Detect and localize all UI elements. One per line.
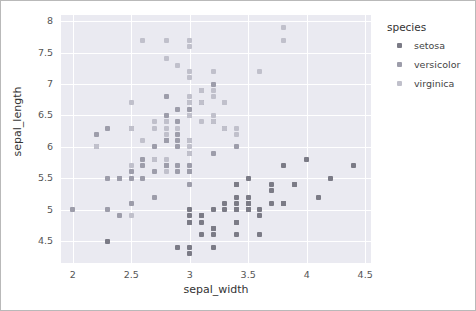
legend-item-virginica[interactable]: virginica xyxy=(387,78,473,89)
data-point-versicolor xyxy=(175,119,180,124)
data-point-virginica xyxy=(175,63,180,68)
y-axis-title: sepal_length xyxy=(11,62,24,182)
data-point-virginica xyxy=(164,157,169,162)
data-point-setosa xyxy=(222,207,227,212)
data-point-virginica xyxy=(199,119,204,124)
data-point-versicolor xyxy=(164,113,169,118)
data-point-versicolor xyxy=(152,144,157,149)
legend-marker-icon xyxy=(397,81,402,86)
data-point-versicolor xyxy=(117,176,122,181)
data-point-virginica xyxy=(129,163,134,168)
data-point-versicolor xyxy=(175,138,180,143)
scatter-plot-area[interactable] xyxy=(61,15,371,263)
data-point-setosa xyxy=(269,182,274,187)
x-tick-label: 4 xyxy=(304,269,310,280)
y-tick-label: 4.5 xyxy=(1,235,53,246)
data-point-setosa xyxy=(199,232,204,237)
data-point-setosa xyxy=(234,207,239,212)
data-point-versicolor xyxy=(70,207,75,212)
legend-item-label: setosa xyxy=(414,40,445,51)
data-point-virginica xyxy=(281,25,286,30)
data-point-setosa xyxy=(234,232,239,237)
data-point-versicolor xyxy=(164,163,169,168)
data-point-versicolor xyxy=(140,176,145,181)
legend-item-label: virginica xyxy=(414,78,454,89)
y-tick-label: 6.5 xyxy=(1,109,53,120)
x-tick-label: 3 xyxy=(187,269,193,280)
data-point-setosa xyxy=(328,176,333,181)
data-point-setosa xyxy=(269,201,274,206)
data-point-setosa xyxy=(246,195,251,200)
data-point-versicolor xyxy=(164,138,169,143)
data-point-versicolor xyxy=(175,169,180,174)
data-point-virginica xyxy=(187,38,192,43)
data-point-setosa xyxy=(211,245,216,250)
data-point-setosa xyxy=(187,213,192,218)
data-point-setosa xyxy=(257,213,262,218)
data-point-versicolor xyxy=(140,163,145,168)
y-tick-label: 5 xyxy=(1,204,53,215)
x-axis-title: sepal_width xyxy=(61,283,371,296)
data-point-virginica xyxy=(257,69,262,74)
data-point-virginica xyxy=(164,38,169,43)
data-point-setosa xyxy=(211,226,216,231)
data-point-virginica xyxy=(152,157,157,162)
data-point-versicolor xyxy=(187,169,192,174)
data-point-setosa xyxy=(281,163,286,168)
data-point-virginica xyxy=(234,126,239,131)
data-point-versicolor xyxy=(152,169,157,174)
data-point-versicolor xyxy=(187,182,192,187)
data-point-virginica xyxy=(94,144,99,149)
data-point-setosa xyxy=(234,220,239,225)
legend-item-setosa[interactable]: setosa xyxy=(387,40,473,51)
data-point-virginica xyxy=(199,100,204,105)
data-point-versicolor xyxy=(117,213,122,218)
y-tick-label: 8 xyxy=(1,15,53,26)
data-point-versicolor xyxy=(187,163,192,168)
data-point-setosa xyxy=(199,213,204,218)
data-point-versicolor xyxy=(105,176,110,181)
gridline-horizontal xyxy=(61,21,371,22)
data-point-virginica xyxy=(211,88,216,93)
y-tick-label: 5.5 xyxy=(1,172,53,183)
data-point-virginica xyxy=(211,94,216,99)
data-point-virginica xyxy=(222,126,227,131)
data-point-virginica xyxy=(187,44,192,49)
gridline-horizontal xyxy=(61,53,371,54)
data-point-setosa xyxy=(175,245,180,250)
data-point-setosa xyxy=(246,201,251,206)
data-point-setosa xyxy=(187,220,192,225)
data-point-virginica xyxy=(152,119,157,124)
data-point-setosa xyxy=(211,232,216,237)
data-point-setosa xyxy=(187,245,192,250)
data-point-versicolor xyxy=(105,207,110,212)
data-point-virginica xyxy=(152,126,157,131)
data-point-versicolor xyxy=(94,132,99,137)
data-point-setosa xyxy=(234,195,239,200)
legend-item-label: versicolor xyxy=(414,59,460,70)
data-point-virginica xyxy=(211,113,216,118)
data-point-setosa xyxy=(211,207,216,212)
data-point-versicolor xyxy=(187,107,192,112)
data-point-virginica xyxy=(129,213,134,218)
data-point-versicolor xyxy=(152,195,157,200)
legend-item-versicolor[interactable]: versicolor xyxy=(387,59,473,70)
data-point-versicolor xyxy=(140,157,145,162)
data-point-versicolor xyxy=(175,144,180,149)
data-point-versicolor xyxy=(175,107,180,112)
data-point-setosa xyxy=(187,207,192,212)
data-point-virginica xyxy=(140,138,145,143)
legend: species setosaversicolorvirginica xyxy=(387,21,473,97)
legend-entries: setosaversicolorvirginica xyxy=(387,40,473,89)
data-point-setosa xyxy=(246,207,251,212)
data-point-virginica xyxy=(211,69,216,74)
legend-marker-icon xyxy=(397,43,402,48)
data-point-setosa xyxy=(316,195,321,200)
x-tick-label: 2.5 xyxy=(124,269,139,280)
data-point-virginica xyxy=(175,126,180,131)
data-point-setosa xyxy=(246,176,251,181)
data-point-setosa xyxy=(269,188,274,193)
data-point-versicolor xyxy=(234,144,239,149)
data-point-virginica xyxy=(281,38,286,43)
data-point-setosa xyxy=(351,163,356,168)
